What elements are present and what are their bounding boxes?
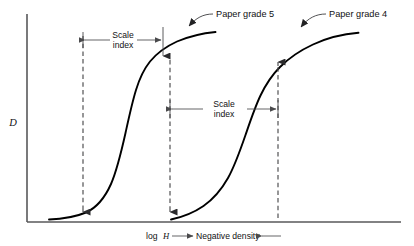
curve-paper-grade-5 <box>49 32 216 220</box>
scale-index-1-group: Scale index <box>83 27 163 56</box>
scale-index-2-label-line1: Scale <box>213 99 235 109</box>
x-axis-label-log: log <box>146 231 158 241</box>
callout-grade-4-leader <box>301 14 326 27</box>
x-axis-label-group: log H Negative density <box>146 231 281 241</box>
callout-grade-4-label: Paper grade 4 <box>329 9 387 19</box>
hd-curve-figure: D Scale <box>0 0 414 246</box>
x-axis-label-negative-density: Negative density <box>196 231 260 241</box>
curve-paper-grade-4 <box>171 33 359 220</box>
callout-grade-4-group: Paper grade 4 <box>301 9 387 27</box>
scale-index-2-label-line2: index <box>214 109 235 119</box>
callout-grade-5-label: Paper grade 5 <box>216 9 274 19</box>
callout-grade-5-leader <box>189 14 213 26</box>
scale-index-1-label-line2: index <box>113 40 134 50</box>
callout-grade-5-group: Paper grade 5 <box>189 9 274 26</box>
figure-canvas: D Scale <box>0 0 414 246</box>
curves-group <box>49 32 359 220</box>
scale-index-2-group: Scale index <box>170 99 278 119</box>
x-axis-label-h: H <box>162 231 170 241</box>
scale-index-1-label-line1: Scale <box>112 30 134 40</box>
y-axis-label: D <box>8 117 17 128</box>
